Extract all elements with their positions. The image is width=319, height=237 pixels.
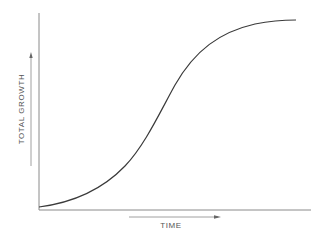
y-axis-label: TOTAL GROWTH [17,74,26,145]
x-direction-arrow-icon [129,215,221,218]
x-axis-label: TIME [160,221,182,230]
y-direction-arrow-icon [29,52,32,166]
growth-curve [39,20,296,207]
growth-diagram: TOTAL GROWTH TIME [0,0,319,237]
